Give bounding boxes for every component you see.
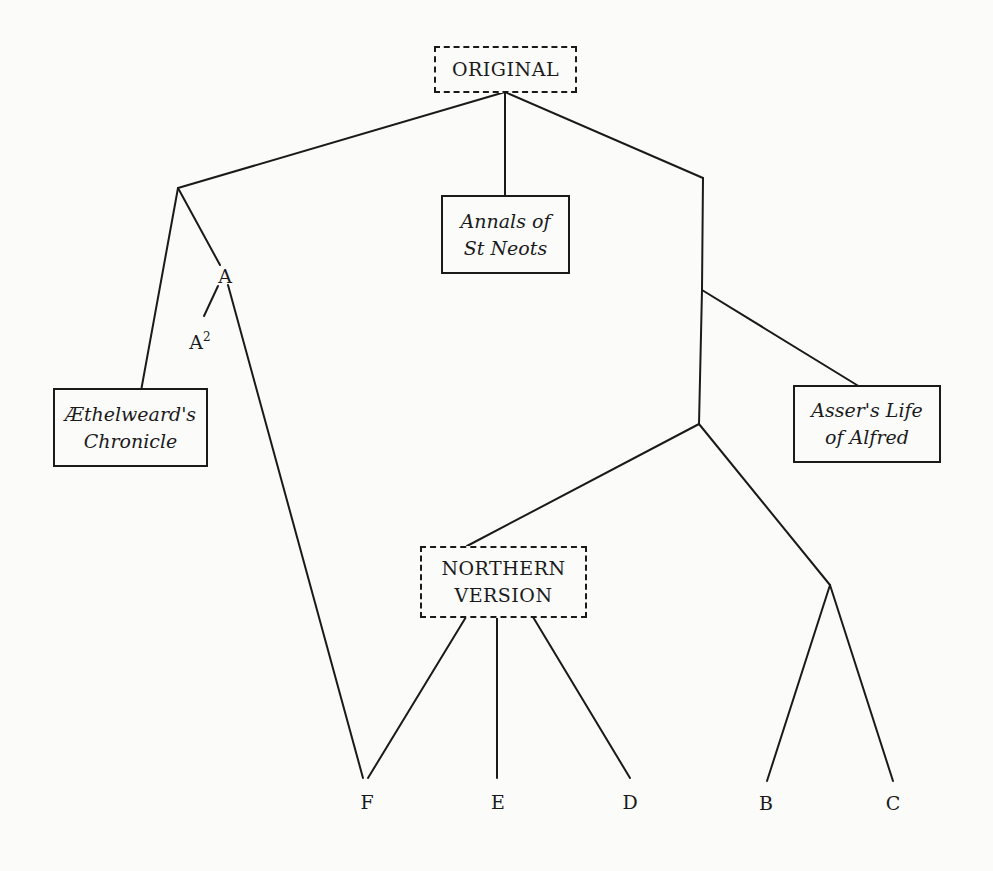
node-f: F bbox=[360, 792, 373, 812]
node-aethelweard-label: Æthelweard's Chronicle bbox=[65, 401, 196, 455]
node-aethelweards-chronicle: Æthelweard's Chronicle bbox=[53, 388, 208, 467]
node-northern-version: NORTHERN VERSION bbox=[420, 546, 587, 618]
node-d-label: D bbox=[622, 791, 637, 813]
edge-left-a bbox=[178, 188, 220, 265]
edge-original-left bbox=[178, 92, 505, 188]
node-b-label: B bbox=[759, 792, 773, 814]
edge-northern-d bbox=[533, 617, 630, 778]
node-a2-superscript: 2 bbox=[203, 330, 211, 344]
edge-northern-f bbox=[368, 617, 466, 778]
edge-right-asser bbox=[702, 290, 865, 390]
edge-bc-c bbox=[830, 585, 893, 781]
edge-original-right bbox=[505, 92, 703, 178]
node-northern-label: NORTHERN VERSION bbox=[441, 555, 565, 609]
node-d: D bbox=[622, 792, 637, 812]
node-annals-of-st-neots: Annals of St Neots bbox=[441, 195, 570, 274]
node-e-label: E bbox=[491, 791, 505, 813]
edge-a-a2 bbox=[204, 286, 218, 316]
node-a2: A2 bbox=[189, 327, 210, 352]
node-b: B bbox=[759, 793, 773, 813]
edge-right-trunk-lower bbox=[699, 290, 702, 424]
node-a2-label: A bbox=[189, 331, 203, 353]
node-e: E bbox=[491, 792, 505, 812]
edge-left-aethelweard bbox=[141, 188, 178, 391]
edge-a-f bbox=[228, 285, 363, 778]
node-c: C bbox=[886, 793, 901, 813]
edge-bc-b bbox=[767, 585, 830, 781]
node-original: ORIGINAL bbox=[434, 46, 577, 93]
node-asser-label: Asser's Life of Alfred bbox=[811, 397, 923, 451]
node-annals-label: Annals of St Neots bbox=[461, 208, 551, 262]
node-f-label: F bbox=[360, 791, 373, 813]
node-original-label: ORIGINAL bbox=[452, 56, 559, 83]
node-assers-life-of-alfred: Asser's Life of Alfred bbox=[793, 385, 941, 463]
node-a-label: A bbox=[218, 265, 232, 287]
edge-right-trunk-upper bbox=[702, 178, 703, 290]
node-c-label: C bbox=[886, 792, 901, 814]
edge-lower-northern bbox=[467, 424, 699, 546]
node-a: A bbox=[218, 266, 232, 286]
